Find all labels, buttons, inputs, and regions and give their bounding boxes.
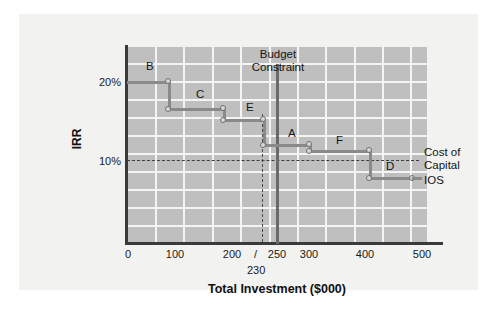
step-node-a-start — [260, 142, 266, 148]
step-segment-e — [223, 119, 265, 122]
budget-constraint-line — [276, 64, 279, 244]
step-segment-c — [168, 108, 225, 111]
budget-constraint-label-line2: Constraint — [232, 61, 324, 74]
cost-of-capital-label: Cost of Capital — [424, 146, 460, 172]
gridline-vertical — [354, 47, 356, 242]
x-tick-label-400: 400 — [350, 248, 380, 260]
y-axis-title: IRR — [70, 129, 84, 150]
step-drop-f — [369, 150, 372, 178]
ios-tail-segment — [412, 177, 422, 180]
y-tick-label-20: 20% — [87, 76, 121, 88]
gridline-vertical — [155, 47, 157, 242]
project-label-d: D — [386, 160, 394, 172]
y-tick-label-10: 10% — [87, 155, 121, 167]
step-node-e-start — [220, 117, 226, 123]
step-segment-b — [127, 81, 170, 84]
step-drop-b — [168, 81, 171, 109]
ios-series-label: IOS — [424, 174, 444, 186]
step-segment-d — [369, 177, 413, 180]
step-node-f-end — [366, 147, 372, 153]
gridline-vertical — [382, 47, 384, 242]
step-node-c-start — [165, 106, 171, 112]
project-label-a: A — [288, 127, 296, 139]
project-label-f: F — [336, 134, 343, 146]
x-tick-label-100: 100 — [160, 248, 190, 260]
x-tick-separator-slash: / — [254, 248, 257, 260]
chart-card: 20% 10% 0 100 200 / 250 300 400 500 230 … — [19, 14, 478, 290]
budget-230-label: 230 — [247, 264, 265, 276]
gridline-vertical — [240, 47, 242, 242]
y-axis-line — [125, 45, 128, 244]
x-tick-label-300: 300 — [294, 248, 324, 260]
budget-constraint-label: Budget Constraint — [232, 48, 324, 74]
step-segment-f — [309, 150, 371, 153]
cost-of-capital-label-line2: Capital — [424, 159, 460, 172]
cost-of-capital-line — [127, 160, 419, 161]
chart-screenshot: 20% 10% 0 100 200 / 250 300 400 500 230 … — [0, 0, 497, 309]
x-axis-line — [125, 242, 443, 245]
x-tick-label-0: 0 — [117, 248, 139, 260]
gridline-vertical — [212, 47, 214, 242]
gridline-vertical — [325, 47, 327, 242]
x-tick-label-500: 500 — [407, 248, 437, 260]
step-node-c-end — [220, 105, 226, 111]
step-node-b-end — [165, 78, 171, 84]
step-node-f-start — [306, 148, 312, 154]
project-label-e: E — [246, 101, 254, 113]
budget-constraint-label-line1: Budget — [232, 48, 324, 61]
step-segment-a — [263, 144, 311, 147]
project-label-b: B — [146, 60, 154, 72]
step-node-d-start — [366, 175, 372, 181]
cost-of-capital-label-line1: Cost of — [424, 146, 460, 159]
x-tick-label-200: 200 — [217, 248, 247, 260]
step-node-a-end — [306, 141, 312, 147]
step-node-e-end — [260, 116, 266, 122]
gridline-vertical — [410, 47, 412, 242]
gridline-vertical — [183, 47, 185, 242]
project-label-c: C — [196, 88, 204, 100]
x-tick-label-250: 250 — [262, 248, 292, 260]
x-axis-title: Total Investment ($000) — [127, 282, 427, 296]
